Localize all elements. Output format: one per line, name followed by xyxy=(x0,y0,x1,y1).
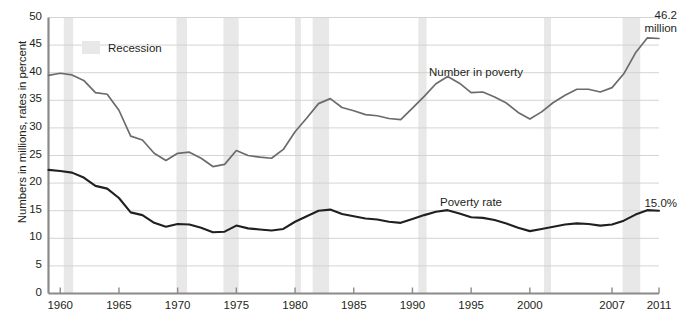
legend-label-recession: Recession xyxy=(108,42,162,54)
y-tick-label: 25 xyxy=(16,148,42,160)
annotation-count-end: 46.2 million xyxy=(607,9,677,35)
y-tick-label: 10 xyxy=(16,230,42,242)
legend: Recession xyxy=(82,41,162,54)
y-tick-label: 5 xyxy=(16,258,42,270)
x-tick-label: 1975 xyxy=(213,299,259,311)
poverty-chart: Numbers in millions, rates in percent 50… xyxy=(0,0,681,330)
y-tick-label: 40 xyxy=(16,65,42,77)
y-tick-label: 30 xyxy=(16,120,42,132)
x-tick-label: 1980 xyxy=(272,299,318,311)
x-tick-label: 2000 xyxy=(507,299,553,311)
annotation-count-unit: million xyxy=(607,22,677,35)
annotation-rate-end: 15.0% xyxy=(617,197,677,210)
annotation-count-value: 46.2 xyxy=(607,9,677,22)
y-tick-label: 45 xyxy=(16,37,42,49)
y-tick-label: 0 xyxy=(16,286,42,298)
y-tick-label: 50 xyxy=(16,10,42,22)
recession-swatch-icon xyxy=(82,41,100,54)
y-tick-label: 15 xyxy=(16,203,42,215)
x-tick-label: 1965 xyxy=(96,299,142,311)
x-tick-label: 2011 xyxy=(636,299,681,311)
footer-cutoff-strip xyxy=(0,314,681,330)
gridline-group xyxy=(49,18,660,294)
series-label-poverty-rate: Poverty rate xyxy=(440,196,502,208)
x-tick-label: 1995 xyxy=(448,299,494,311)
y-tick-label: 20 xyxy=(16,175,42,187)
x-tick-label: 1985 xyxy=(331,299,377,311)
series-line-group xyxy=(49,38,660,232)
x-tick-label: 1970 xyxy=(155,299,201,311)
x-tick-label: 1960 xyxy=(37,299,83,311)
x-tick-label: 1990 xyxy=(389,299,435,311)
x-tick-label: 2007 xyxy=(589,299,635,311)
series-label-number-in-poverty: Number in poverty xyxy=(429,66,523,78)
y-tick-label: 35 xyxy=(16,92,42,104)
